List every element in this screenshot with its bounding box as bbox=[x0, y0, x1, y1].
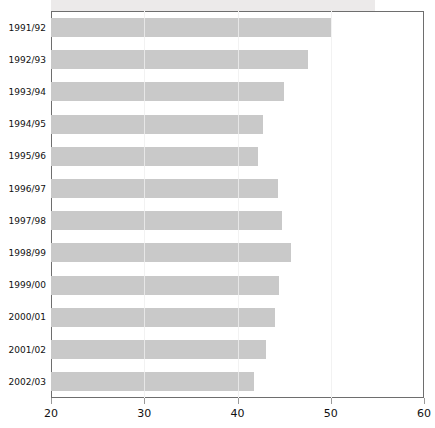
bar-1996-97[interactable] bbox=[51, 179, 278, 198]
bar-row[interactable] bbox=[51, 211, 424, 230]
bar-row[interactable] bbox=[51, 276, 424, 295]
bar-1995-96[interactable] bbox=[51, 147, 258, 166]
x-tick-mark-50 bbox=[331, 398, 332, 404]
top-crop-band bbox=[51, 0, 375, 11]
x-tick-label-50: 50 bbox=[311, 407, 351, 420]
bar-1997-98[interactable] bbox=[51, 211, 282, 230]
x-tick-label-20: 20 bbox=[31, 407, 71, 420]
x-tick-label-30: 30 bbox=[124, 407, 164, 420]
y-axis-category-labels: 1991/921992/931993/941994/951995/961996/… bbox=[0, 11, 46, 398]
y-axis-label-1994-95: 1994/95 bbox=[0, 119, 46, 129]
bar-row[interactable] bbox=[51, 115, 424, 134]
bar-row[interactable] bbox=[51, 50, 424, 69]
y-axis-label-1999-00: 1999/00 bbox=[0, 280, 46, 290]
bar-2001-02[interactable] bbox=[51, 340, 266, 359]
bar-row[interactable] bbox=[51, 372, 424, 391]
bar-1999-00[interactable] bbox=[51, 276, 279, 295]
y-axis-label-1993-94: 1993/94 bbox=[0, 87, 46, 97]
x-axis-ticks: 2030405060 bbox=[0, 398, 430, 428]
bar-1994-95[interactable] bbox=[51, 115, 263, 134]
bar-row[interactable] bbox=[51, 179, 424, 198]
y-axis-label-1992-93: 1992/93 bbox=[0, 55, 46, 65]
bar-series bbox=[51, 11, 424, 398]
x-tick-mark-20 bbox=[51, 398, 52, 404]
y-axis-label-2000-01: 2000/01 bbox=[0, 312, 46, 322]
y-axis-label-1996-97: 1996/97 bbox=[0, 184, 46, 194]
x-tick-mark-30 bbox=[144, 398, 145, 404]
bar-row[interactable] bbox=[51, 18, 424, 37]
y-axis-label-1997-98: 1997/98 bbox=[0, 216, 46, 226]
x-tick-label-40: 40 bbox=[218, 407, 258, 420]
bar-1991-92[interactable] bbox=[51, 18, 331, 37]
y-axis-label-2002-03: 2002/03 bbox=[0, 377, 46, 387]
bar-row[interactable] bbox=[51, 243, 424, 262]
y-axis-label-1995-96: 1995/96 bbox=[0, 151, 46, 161]
bar-row[interactable] bbox=[51, 340, 424, 359]
bar-2002-03[interactable] bbox=[51, 372, 254, 391]
y-axis-label-1991-92: 1991/92 bbox=[0, 23, 46, 33]
bar-row[interactable] bbox=[51, 308, 424, 327]
x-tick-mark-60 bbox=[424, 398, 425, 404]
bar-row[interactable] bbox=[51, 82, 424, 101]
x-tick-label-60: 60 bbox=[404, 407, 435, 420]
bar-2000-01[interactable] bbox=[51, 308, 275, 327]
bar-row[interactable] bbox=[51, 147, 424, 166]
y-axis-label-1998-99: 1998/99 bbox=[0, 248, 46, 258]
bar-1992-93[interactable] bbox=[51, 50, 308, 69]
x-tick-mark-40 bbox=[238, 398, 239, 404]
y-axis-label-2001-02: 2001/02 bbox=[0, 345, 46, 355]
bar-1998-99[interactable] bbox=[51, 243, 291, 262]
bar-1993-94[interactable] bbox=[51, 82, 284, 101]
